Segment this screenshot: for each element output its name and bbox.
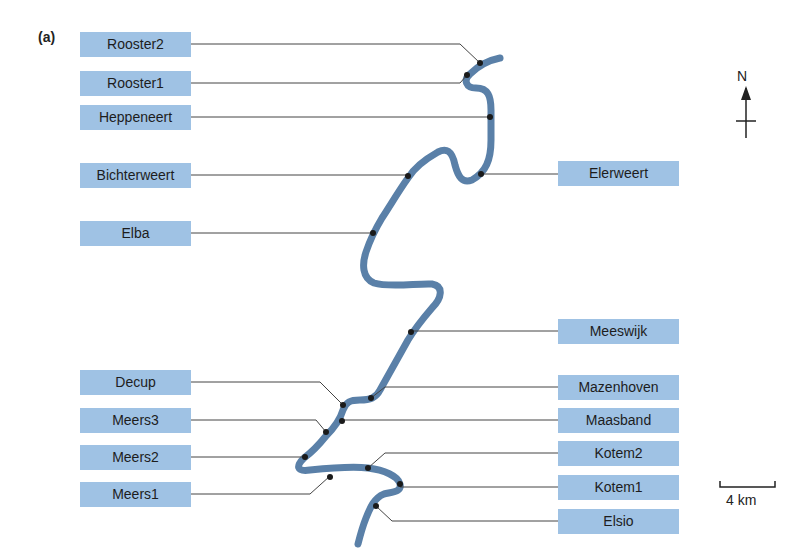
scale-label: 4 km xyxy=(726,492,756,508)
river-path xyxy=(299,58,500,544)
site-box-kotem1: Kotem1 xyxy=(558,475,679,500)
site-box-meers1: Meers1 xyxy=(80,482,191,507)
site-box-meers2: Meers2 xyxy=(80,445,191,470)
site-dot-decup xyxy=(340,402,346,408)
site-dot-rooster2 xyxy=(477,60,483,66)
site-box-heppeneert: Heppeneert xyxy=(80,105,191,130)
site-box-elsio: Elsio xyxy=(558,509,679,534)
site-box-rooster2: Rooster2 xyxy=(80,32,191,57)
scale-bar xyxy=(720,481,775,487)
site-box-meers3: Meers3 xyxy=(80,408,191,433)
site-box-kotem2: Kotem2 xyxy=(558,441,679,466)
site-dot-maasband xyxy=(339,418,345,424)
site-box-bichterweert: Bichterweert xyxy=(80,163,191,188)
site-dot-elba xyxy=(370,230,376,236)
site-box-elba: Elba xyxy=(80,221,191,246)
site-dot-meers1 xyxy=(327,474,333,480)
site-box-maasband: Maasband xyxy=(558,408,679,433)
site-box-elerweert: Elerweert xyxy=(558,161,679,186)
site-dot-meers3 xyxy=(323,429,329,435)
site-dot-bichterweert xyxy=(405,173,411,179)
site-dot-elerweert xyxy=(478,171,484,177)
site-box-decup: Decup xyxy=(80,370,191,395)
site-dot-rooster1 xyxy=(464,72,470,78)
site-box-mazenhoven: Mazenhoven xyxy=(558,375,679,400)
site-dot-kotem2 xyxy=(365,465,371,471)
site-dot-elsio xyxy=(373,503,379,509)
site-dot-kotem1 xyxy=(397,481,403,487)
site-dot-mazenhoven xyxy=(368,395,374,401)
site-dot-heppeneert xyxy=(487,114,493,120)
site-dot-meeswijk xyxy=(408,329,414,335)
site-box-meeswijk: Meeswijk xyxy=(558,319,679,344)
north-label: N xyxy=(737,68,747,84)
north-arrow-icon xyxy=(736,86,756,138)
site-box-rooster1: Rooster1 xyxy=(80,71,191,96)
site-dot-meers2 xyxy=(302,454,308,460)
